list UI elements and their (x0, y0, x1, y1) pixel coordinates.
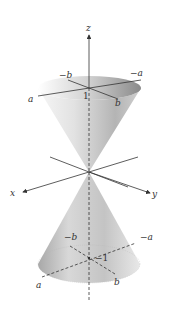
x-axis (23, 172, 89, 192)
top-label-neg-b: −b (59, 70, 73, 80)
bottom-label-b: b (114, 277, 120, 287)
bottom-section-center-point (88, 257, 90, 259)
y-axis-label: y (151, 189, 158, 199)
x-axis-label: x (10, 188, 15, 198)
bottom-label-level: −1 (95, 253, 108, 263)
top-label-b: b (115, 98, 121, 108)
upper-cone-nappe (38, 76, 141, 172)
top-label-neg-a: −a (130, 68, 143, 78)
bottom-label-neg-a: −a (140, 232, 153, 242)
z-axis-label: z (85, 23, 91, 33)
double-cone-diagram: z x y −b −a a b 1 −b −a a b −1 (0, 0, 171, 311)
bottom-label-neg-b: −b (64, 232, 78, 242)
top-label-a: a (28, 94, 33, 104)
top-label-level: 1 (83, 91, 89, 101)
bottom-label-a: a (36, 280, 41, 290)
